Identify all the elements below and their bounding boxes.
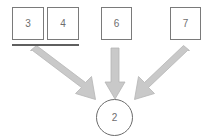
node-box-6[interactable]: 6 <box>101 7 132 40</box>
arrow-left <box>31 46 96 100</box>
node-label-3: 3 <box>25 19 31 29</box>
node-label-4: 4 <box>60 19 66 29</box>
arrow-right <box>135 46 190 100</box>
node-box-4[interactable]: 4 <box>47 7 79 40</box>
node-label-7: 7 <box>183 19 189 29</box>
node-circle-2[interactable]: 2 <box>96 99 133 136</box>
group-underline <box>12 44 79 46</box>
node-label-2: 2 <box>112 113 118 123</box>
node-box-7[interactable]: 7 <box>170 7 201 40</box>
node-label-6: 6 <box>114 19 120 29</box>
diagram-canvas: 3 4 6 7 2 <box>0 0 213 137</box>
arrow-middle <box>105 48 125 99</box>
node-box-3[interactable]: 3 <box>12 7 44 40</box>
